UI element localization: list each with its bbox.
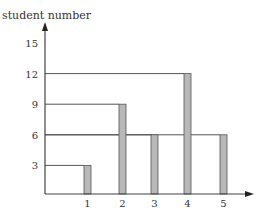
y-axis-label: student number [2,9,92,22]
x-tick-label: 4 [184,198,190,209]
y-tick-label: 6 [32,130,38,141]
x-tick-label: 3 [151,198,157,209]
bars [84,74,227,194]
x-tick-labels: 12345 [84,198,226,209]
y-tick-labels: 3691215 [25,38,38,171]
guide-lines [45,74,220,166]
x-axis-arrow-icon [245,191,254,197]
bar [151,135,158,194]
x-tick-label: 5 [220,198,226,209]
y-tick-label: 3 [32,160,38,171]
bar [84,165,91,194]
y-axis-arrow-icon [42,22,48,31]
bar-chart: student number 3691215 12345 [0,0,262,217]
bar [220,135,227,194]
y-tick-label: 12 [25,69,38,80]
y-tick-label: 15 [25,38,38,49]
x-tick-label: 1 [84,198,90,209]
bar [119,104,126,194]
bar [184,74,191,194]
y-tick-label: 9 [32,99,38,110]
x-tick-label: 2 [119,198,125,209]
